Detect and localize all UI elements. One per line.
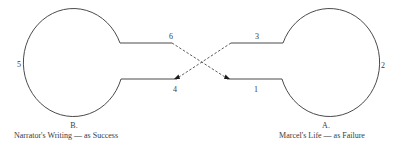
arrowhead-icon-at-1 xyxy=(224,75,230,80)
label-2: 2 xyxy=(381,61,385,70)
right-loop-caption: Marcel's Life — as Failure xyxy=(279,131,365,140)
left-loop xyxy=(23,9,177,117)
connector-6-to-1 xyxy=(172,43,225,77)
label-5: 5 xyxy=(17,60,21,69)
left-loop-letter: B. xyxy=(70,121,77,130)
left-loop-caption: Narrator's Writing — as Success xyxy=(14,131,118,140)
label-4: 4 xyxy=(173,85,177,94)
arrowhead-icon-at-4 xyxy=(174,75,180,80)
connector-3-to-4 xyxy=(179,43,231,77)
proust-loop-diagram: 6 4 5 3 1 2 B. Narrator's Writing — as S… xyxy=(0,0,401,149)
right-loop-circle xyxy=(282,9,380,117)
right-loop xyxy=(227,9,380,117)
left-loop-circle xyxy=(23,9,121,117)
label-1: 1 xyxy=(254,85,258,94)
label-6: 6 xyxy=(169,32,173,41)
label-3: 3 xyxy=(255,32,259,41)
right-loop-letter: A. xyxy=(322,121,330,130)
